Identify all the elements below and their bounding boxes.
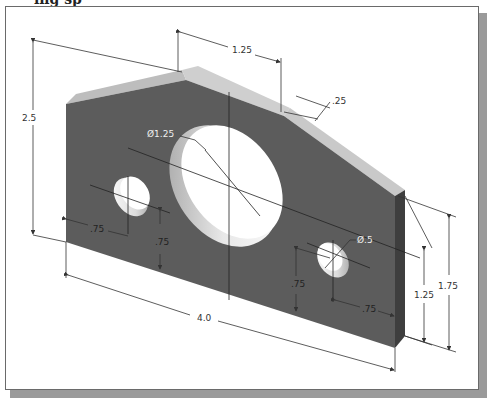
- isometric-part-drawing: 2.5 1.25 .25 Ø1.25 .75 .75 Ø.5 .75 .75 1…: [0, 0, 488, 402]
- plate-side-face: [395, 190, 405, 348]
- dim-left-hole-y: .75: [155, 237, 169, 247]
- dim-small-hole-diameter: Ø.5: [357, 235, 373, 245]
- dim-overall-height: 2.5: [22, 113, 36, 123]
- dim-right-edge-height: 1.25: [414, 290, 434, 300]
- dim-right-hole-y: .75: [291, 279, 305, 289]
- dim-large-hole-diameter: Ø1.25: [147, 129, 174, 139]
- dim-chamfer: .25: [332, 96, 346, 106]
- dim-right-hole-x: .75: [362, 304, 376, 314]
- dim-right-overall-height: 1.75: [438, 281, 458, 291]
- dim-top-flat-width: 1.25: [232, 45, 252, 55]
- dim-left-hole-x: .75: [90, 224, 104, 234]
- dim-overall-length: 4.0: [197, 313, 212, 323]
